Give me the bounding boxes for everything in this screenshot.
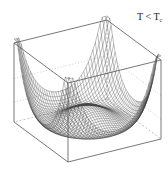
temperature-label: T < Tc bbox=[137, 11, 162, 23]
box-edge bbox=[14, 20, 107, 43]
hidden-edge bbox=[14, 99, 107, 122]
box-edge bbox=[107, 20, 161, 60]
box-edge bbox=[68, 139, 161, 162]
surface-plot bbox=[0, 0, 168, 173]
surface-mesh bbox=[14, 16, 161, 139]
box-edge bbox=[68, 60, 161, 83]
